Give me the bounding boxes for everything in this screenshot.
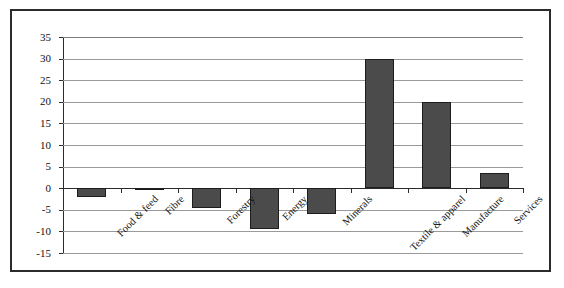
gridline--10	[63, 231, 523, 232]
x-tick-mark	[121, 188, 122, 193]
x-tick-mark	[466, 188, 467, 193]
y-tick-label: -10	[11, 226, 51, 237]
y-tick-label: 5	[11, 161, 51, 172]
y-tick-mark--15	[59, 253, 63, 254]
gridline-35	[63, 37, 523, 38]
y-tick-mark-25	[59, 80, 63, 81]
gridline-30	[63, 59, 523, 60]
x-tick-mark	[63, 188, 64, 193]
bar-chart: 35302520151050-5-10-15 Food & feedFibreF…	[0, 0, 564, 288]
gridline--15	[63, 253, 523, 254]
bar	[422, 102, 451, 188]
bar	[135, 188, 164, 190]
gridline-25	[63, 80, 523, 81]
y-tick-label: 15	[11, 118, 51, 129]
y-tick-mark-10	[59, 145, 63, 146]
x-tick-mark	[408, 188, 409, 193]
y-tick-mark-30	[59, 59, 63, 60]
y-tick-mark-35	[59, 37, 63, 38]
y-tick-mark--10	[59, 231, 63, 232]
y-tick-mark-15	[59, 123, 63, 124]
bar	[480, 173, 509, 188]
y-tick-label: 10	[11, 140, 51, 151]
y-tick-label: 20	[11, 96, 51, 107]
y-tick-label: 0	[11, 183, 51, 194]
bar	[192, 188, 221, 207]
bar	[77, 188, 106, 197]
y-tick-mark-20	[59, 102, 63, 103]
gridline-5	[63, 167, 523, 168]
bar	[365, 59, 394, 189]
y-tick-label: 25	[11, 75, 51, 86]
bar	[307, 188, 336, 214]
y-tick-label: 30	[11, 53, 51, 64]
gridline-15	[63, 123, 523, 124]
x-tick-mark	[351, 188, 352, 193]
y-tick-mark--5	[59, 210, 63, 211]
bar	[250, 188, 279, 229]
x-tick-mark	[236, 188, 237, 193]
y-tick-label: -15	[11, 248, 51, 259]
gridline-20	[63, 102, 523, 103]
y-tick-label: 35	[11, 32, 51, 43]
x-tick-mark	[523, 188, 524, 193]
gridline-10	[63, 145, 523, 146]
y-tick-mark-5	[59, 167, 63, 168]
y-tick-label: -5	[11, 204, 51, 215]
x-tick-mark	[293, 188, 294, 193]
